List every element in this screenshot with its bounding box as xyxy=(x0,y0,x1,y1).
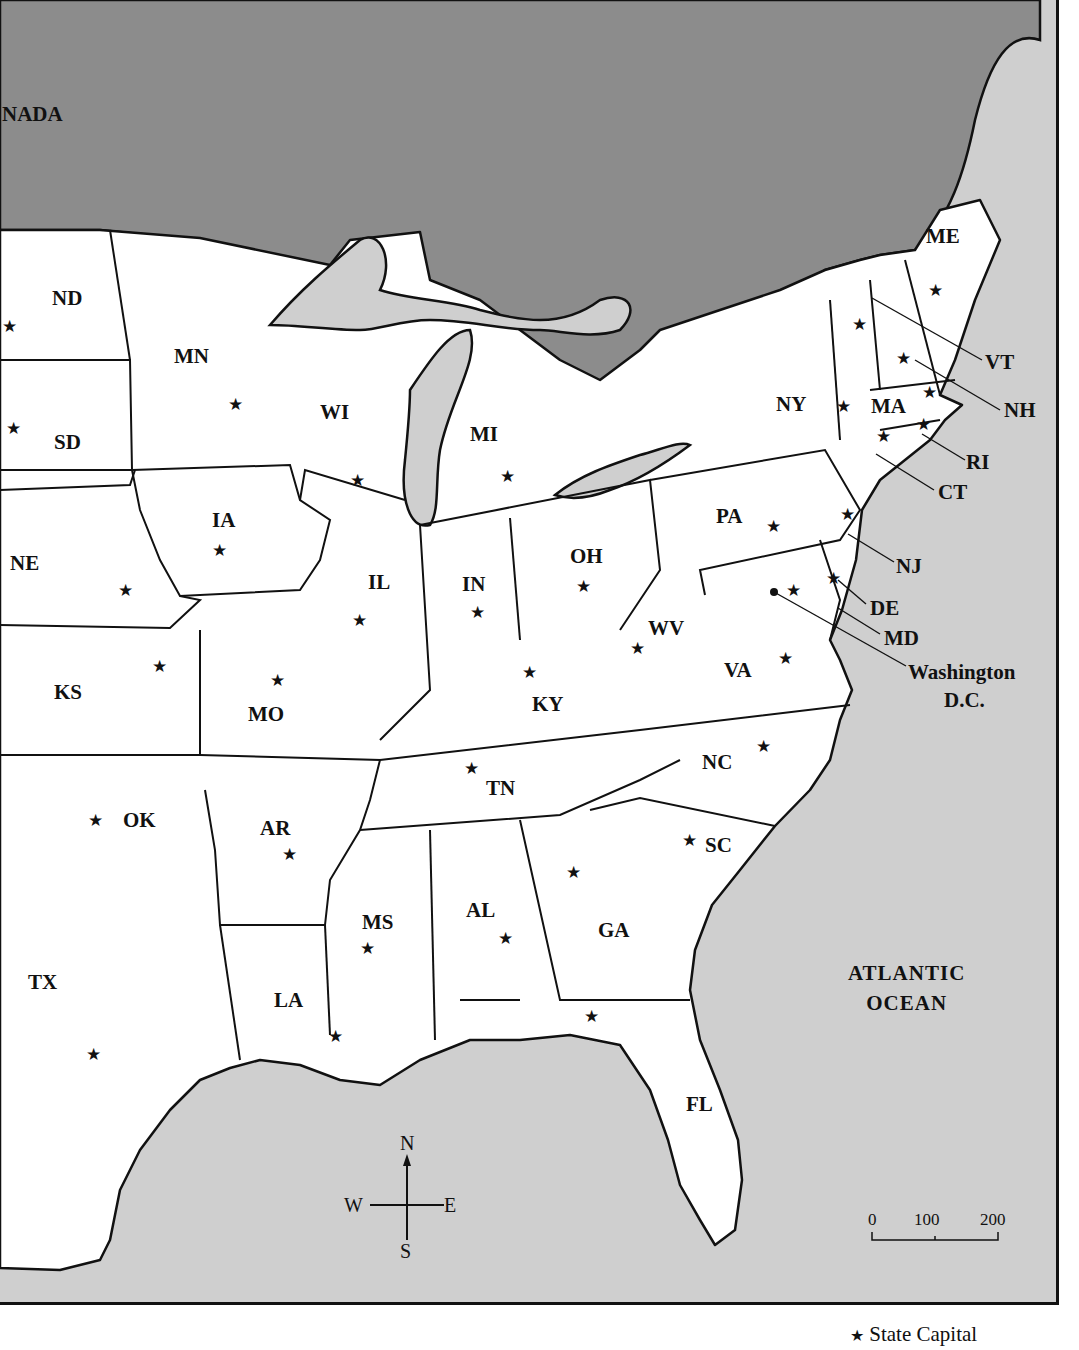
capital-star-icon: ★ xyxy=(118,582,133,599)
state-label: MS xyxy=(362,912,394,933)
state-label: DE xyxy=(870,598,899,619)
capital-star-icon: ★ xyxy=(360,940,375,957)
capital-star-icon: ★ xyxy=(836,398,851,415)
capital-star-icon: ★ xyxy=(270,672,285,689)
compass-rose: N W E S xyxy=(340,1132,460,1262)
legend-star-icon: ★ xyxy=(850,1327,864,1344)
capital-star-icon: ★ xyxy=(282,846,297,863)
capital-star-icon: ★ xyxy=(498,930,513,947)
scale-bar: 0 100 200 xyxy=(862,1210,1002,1250)
state-label: ME xyxy=(926,226,960,247)
capital-star-icon: ★ xyxy=(840,506,855,523)
state-label: WV xyxy=(648,618,684,639)
state-label: MA xyxy=(871,396,906,417)
state-label: ND xyxy=(52,288,82,309)
state-label: NJ xyxy=(896,556,922,577)
capital-star-icon: ★ xyxy=(352,612,367,629)
state-label: TN xyxy=(486,778,515,799)
state-label: GA xyxy=(598,920,630,941)
ocean-label: ATLANTIC OCEAN xyxy=(848,958,965,1019)
capital-star-icon: ★ xyxy=(756,738,771,755)
capital-star-icon: ★ xyxy=(876,428,891,445)
capital-star-icon: ★ xyxy=(2,318,17,335)
capital-star-icon: ★ xyxy=(6,420,21,437)
state-label: MI xyxy=(470,424,498,445)
state-label: OK xyxy=(123,810,156,831)
state-label: PA xyxy=(716,506,742,527)
capital-star-icon: ★ xyxy=(682,832,697,849)
capital-star-icon: ★ xyxy=(896,350,911,367)
state-label: IN xyxy=(462,574,485,595)
state-label: NE xyxy=(10,553,39,574)
state-label: CT xyxy=(938,482,967,503)
capital-star-icon: ★ xyxy=(786,582,801,599)
compass-east: E xyxy=(444,1194,456,1217)
ocean-label-line2: OCEAN xyxy=(848,988,965,1018)
state-label: KS xyxy=(54,682,82,703)
state-label: FL xyxy=(686,1094,713,1115)
capital-star-icon: ★ xyxy=(470,604,485,621)
ocean-label-line1: ATLANTIC xyxy=(848,958,965,988)
state-label: IA xyxy=(212,510,235,531)
capital-star-icon: ★ xyxy=(852,316,867,333)
state-label: VA xyxy=(724,660,752,681)
capital-star-icon: ★ xyxy=(566,864,581,881)
state-label: NH xyxy=(1004,400,1036,421)
capital-star-icon: ★ xyxy=(522,664,537,681)
capital-star-icon: ★ xyxy=(464,760,479,777)
capital-star-icon: ★ xyxy=(928,282,943,299)
capital-star-icon: ★ xyxy=(778,650,793,667)
capital-star-icon: ★ xyxy=(766,518,781,535)
capital-star-icon: ★ xyxy=(916,416,931,433)
capital-star-icon: ★ xyxy=(152,658,167,675)
dc-dot-icon xyxy=(770,588,778,596)
capital-star-icon: ★ xyxy=(328,1028,343,1045)
capital-star-icon: ★ xyxy=(630,640,645,657)
state-label: NC xyxy=(702,752,732,773)
state-label: RI xyxy=(966,452,989,473)
state-label: IL xyxy=(368,572,390,593)
state-label: LA xyxy=(274,990,303,1011)
leader-ri xyxy=(922,434,965,460)
capital-star-icon: ★ xyxy=(86,1046,101,1063)
state-label: MN xyxy=(174,346,209,367)
state-label: MD xyxy=(884,628,919,649)
state-label: D.C. xyxy=(944,690,985,711)
state-label: NY xyxy=(776,394,806,415)
us-landmass xyxy=(0,200,1000,1270)
state-label: VT xyxy=(985,352,1014,373)
capital-star-icon: ★ xyxy=(576,578,591,595)
compass-west: W xyxy=(344,1194,363,1217)
state-label: Washington xyxy=(908,662,1015,683)
capital-star-icon: ★ xyxy=(922,384,937,401)
compass-south: S xyxy=(400,1240,411,1263)
state-label: KY xyxy=(532,694,564,715)
state-label: SD xyxy=(54,432,81,453)
compass-north: N xyxy=(400,1132,414,1155)
capital-star-icon: ★ xyxy=(826,570,841,587)
state-label: AR xyxy=(260,818,290,839)
capital-star-icon: ★ xyxy=(584,1008,599,1025)
state-label: MO xyxy=(248,704,284,725)
capital-star-icon: ★ xyxy=(228,396,243,413)
capital-star-icon: ★ xyxy=(350,472,365,489)
capital-star-icon: ★ xyxy=(212,542,227,559)
capital-star-icon: ★ xyxy=(500,468,515,485)
scale-line-icon xyxy=(862,1210,1002,1250)
state-label: AL xyxy=(466,900,495,921)
state-label: OH xyxy=(570,546,603,567)
map-shapes xyxy=(0,0,1059,1305)
state-label: WI xyxy=(320,402,349,423)
state-label: SC xyxy=(705,835,732,856)
state-label: TX xyxy=(28,972,57,993)
legend: ★ State Capital xyxy=(850,1322,977,1347)
map: NADA ATLANTIC OCEAN NDSDNEKSOKTXMNIAMOAR… xyxy=(0,0,1059,1305)
legend-label: State Capital xyxy=(869,1322,977,1346)
canada-label: NADA xyxy=(2,104,63,125)
capital-star-icon: ★ xyxy=(88,812,103,829)
